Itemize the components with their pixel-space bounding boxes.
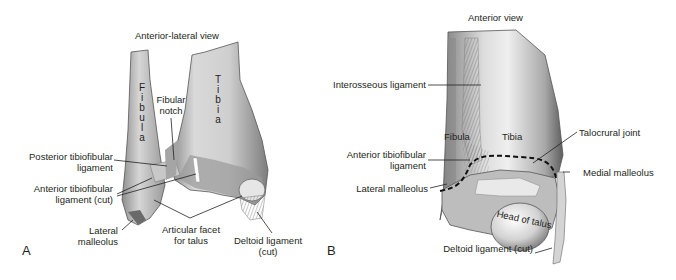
anterior-tib-line1: Anterior tibiofibular	[0, 183, 113, 194]
anterior-tib-b-line1: Anterior tibiofibular	[300, 149, 426, 160]
fibular-notch-line2: notch	[154, 105, 188, 116]
deltoid-ligament-cut-label-b: Deltoid ligament (cut)	[410, 243, 533, 254]
anterior-tib-line2: ligament (cut)	[0, 194, 113, 205]
lateral-mall-line1: Lateral	[60, 225, 118, 236]
artic-facet-line1: Articular facet	[150, 224, 232, 235]
fibular-notch-line1: Fibular	[154, 94, 188, 105]
lateral-malleolus-label-b: Lateral malleolus	[300, 183, 428, 194]
interosseous-ligament-label: Interosseous ligament	[300, 79, 426, 90]
panel-b-letter: B	[327, 243, 336, 258]
posterior-tib-line2: ligament	[0, 162, 113, 173]
lateral-mall-line2: malleolus	[60, 236, 118, 247]
panel-a-letter: A	[22, 243, 31, 258]
talocrural-joint-label: Talocrural joint	[579, 127, 640, 138]
tibia-label-b: Tibia	[502, 131, 522, 142]
fibula-label-b: Fibula	[444, 131, 470, 142]
panel-a-title: Anterior-lateral view	[135, 30, 219, 41]
posterior-tib-line1: Posterior tibiofibular	[0, 151, 113, 162]
anterior-tib-b-line2: ligament	[300, 160, 426, 171]
panel-b-title: Anterior view	[468, 12, 523, 23]
medial-malleolus-label: Medial malleolus	[583, 167, 654, 178]
deltoid-line1: Deltoid ligament	[226, 235, 310, 246]
fibula-letter: a	[137, 132, 147, 143]
tibia-letter: a	[213, 114, 223, 125]
artic-facet-line2: for talus	[150, 235, 232, 246]
deltoid-line2: (cut)	[226, 246, 310, 257]
